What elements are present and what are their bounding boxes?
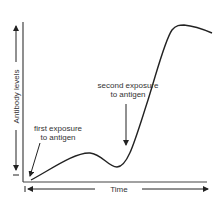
annotation-first-exposure: first exposure to antigen — [28, 124, 88, 142]
antibody-response-diagram — [0, 0, 224, 204]
x-axis-label: Time — [106, 185, 132, 194]
annotation-second-exposure: second exposure to antigen — [93, 81, 163, 99]
annotation-first-line2: to antigen — [28, 133, 88, 142]
first-exposure-arrow-icon — [30, 143, 40, 176]
annotation-first-line1: first exposure — [28, 124, 88, 133]
annotation-second-line2: to antigen — [93, 90, 163, 99]
annotation-second-line1: second exposure — [93, 81, 163, 90]
antibody-curve — [31, 25, 212, 180]
y-axis-label: Antibody levels — [12, 68, 21, 126]
